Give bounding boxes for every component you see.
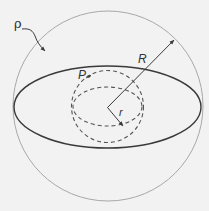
sphere-gravity-diagram: ρ R P r	[0, 0, 209, 211]
density-label: ρ	[14, 16, 22, 31]
outer-sphere	[13, 11, 203, 201]
point-label: P	[78, 68, 86, 82]
inner-equator-dashed	[73, 87, 142, 126]
big-radius-label: R	[138, 52, 147, 66]
small-radius-label: r	[119, 106, 124, 118]
